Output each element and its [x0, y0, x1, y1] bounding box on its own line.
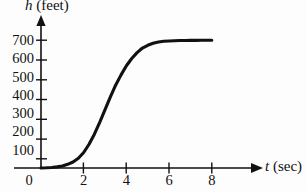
- y-tick-label: 600: [0, 51, 34, 66]
- x-tick-label: 8: [202, 173, 222, 188]
- y-axis: [36, 15, 45, 168]
- graph-figure: h (feet) t (sec) 0: [0, 0, 307, 191]
- x-tick-label: 2: [74, 173, 94, 188]
- y-tick-label: 400: [0, 88, 34, 103]
- y-tick-label: 100: [0, 143, 34, 158]
- x-tick-label: 6: [159, 173, 179, 188]
- data-curve: [41, 40, 212, 168]
- y-tick-label: 300: [0, 106, 34, 121]
- y-tick-label: 200: [0, 124, 34, 139]
- plot-canvas: [0, 0, 307, 191]
- x-tick-label: 4: [116, 173, 136, 188]
- y-tick-label: 700: [0, 33, 34, 48]
- y-tick-label: 500: [0, 70, 34, 85]
